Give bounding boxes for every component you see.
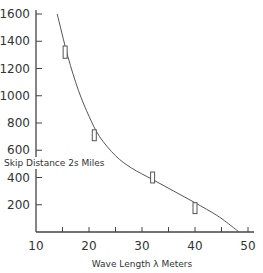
x-tick-label: 20 xyxy=(81,239,96,253)
y-tick-label: 200 xyxy=(7,198,30,212)
error-bar-marker xyxy=(92,130,96,141)
y-axis-label: Skip Distance 2s Miles xyxy=(4,158,105,168)
x-tick-label: 10 xyxy=(28,239,43,253)
error-bar-marker xyxy=(63,46,67,58)
error-bar-marker xyxy=(193,203,197,214)
x-axis-label: Wave Length λ Meters xyxy=(92,259,193,269)
x-tick-label: 50 xyxy=(240,239,255,253)
x-tick-label: 40 xyxy=(187,239,202,253)
y-tick-label: 600 xyxy=(7,143,30,157)
y-tick-label: 800 xyxy=(7,116,30,130)
y-tick-label: 1600 xyxy=(0,7,30,21)
y-tick-label: 1000 xyxy=(0,89,30,103)
plot-area: 10203040502004006008001000120014001600Sk… xyxy=(0,0,263,273)
data-curve xyxy=(57,14,239,232)
y-tick-label: 1200 xyxy=(0,62,30,76)
y-tick-label: 1400 xyxy=(0,34,30,48)
y-tick-label: 400 xyxy=(7,171,30,185)
chart: 10203040502004006008001000120014001600Sk… xyxy=(0,0,263,273)
x-tick-label: 30 xyxy=(134,239,149,253)
error-bar-marker xyxy=(151,172,155,183)
